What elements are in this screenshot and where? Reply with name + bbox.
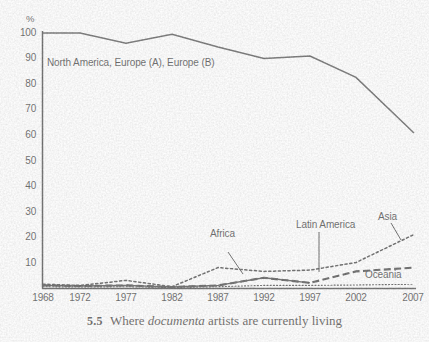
x-tick-1982: 1982 bbox=[152, 292, 192, 303]
y-tick-40: 40 bbox=[10, 180, 36, 191]
caption-emphasis: documenta bbox=[148, 313, 205, 328]
x-tick-1972: 1972 bbox=[60, 292, 100, 303]
y-tick-50: 50 bbox=[10, 155, 36, 166]
x-tick-1997: 1997 bbox=[290, 292, 330, 303]
x-tick-1968: 1968 bbox=[23, 292, 63, 303]
figure-container: 100 90 80 70 60 50 40 30 20 10 % 1968 19… bbox=[0, 0, 429, 342]
y-tick-80: 80 bbox=[10, 78, 36, 89]
x-tick-2002: 2002 bbox=[336, 292, 376, 303]
series-label-oceania: Oceania bbox=[365, 269, 402, 280]
caption-text-before: Where bbox=[110, 313, 148, 328]
series-line-north-america-europe bbox=[43, 33, 414, 133]
x-tick-1977: 1977 bbox=[106, 292, 146, 303]
series-label-asia: Asia bbox=[378, 211, 397, 222]
y-tick-60: 60 bbox=[10, 129, 36, 140]
line-chart bbox=[0, 0, 429, 312]
series-line-africa-asia bbox=[43, 235, 414, 287]
y-tick-10: 10 bbox=[10, 257, 36, 268]
x-tick-2007: 2007 bbox=[393, 292, 429, 303]
series-label-north-america-europe: North America, Europe (A), Europe (B) bbox=[47, 57, 214, 68]
y-tick-90: 90 bbox=[10, 52, 36, 63]
caption-text-after: artists are currently living bbox=[205, 313, 342, 328]
y-axis-unit-label: % bbox=[26, 13, 34, 24]
y-tick-20: 20 bbox=[10, 231, 36, 242]
series-label-latin-america: Latin America bbox=[296, 219, 355, 230]
y-tick-100: 100 bbox=[10, 27, 36, 38]
y-tick-30: 30 bbox=[10, 206, 36, 217]
figure-number: 5.5 bbox=[87, 314, 103, 328]
annotation-leader-lines bbox=[228, 223, 401, 274]
x-tick-1987: 1987 bbox=[198, 292, 238, 303]
figure-caption: 5.5Where documenta artists are currently… bbox=[0, 313, 429, 329]
series-label-africa: Africa bbox=[210, 228, 235, 239]
x-tick-1992: 1992 bbox=[244, 292, 284, 303]
axis-lines bbox=[42, 31, 416, 289]
y-tick-70: 70 bbox=[10, 103, 36, 114]
